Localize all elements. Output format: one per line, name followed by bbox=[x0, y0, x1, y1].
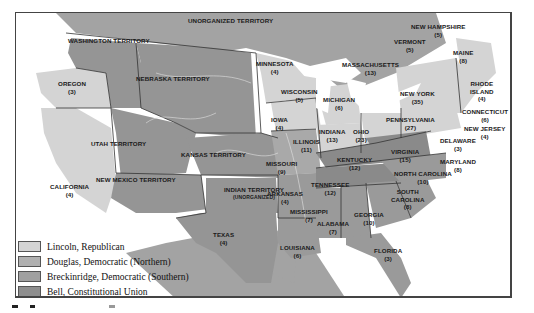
bottom-decoration bbox=[12, 305, 119, 313]
label-connecticut: CONNECTICUT(6) bbox=[462, 108, 508, 123]
label-pennsylvania: PENNSYLVANIA(27) bbox=[386, 116, 435, 131]
legend-item-breckinridge: Breckinridge, Democratic (Southern) bbox=[18, 269, 189, 284]
label-delaware: DELAWARE(3) bbox=[440, 137, 476, 152]
label-alabama: ALABAMA(7) bbox=[317, 220, 349, 235]
map-frame: UNORGANIZED TERRITORY WASHINGTON TERRITO… bbox=[15, 12, 512, 298]
label-illinois: ILLINOIS(11) bbox=[293, 138, 320, 153]
label-maine: MAINE(8) bbox=[453, 49, 473, 64]
label-texas: TEXAS(4) bbox=[213, 231, 234, 246]
label-south-carolina: SOUTHCAROLINA(8) bbox=[391, 188, 424, 211]
label-california: CALIFORNIA(4) bbox=[50, 183, 89, 198]
label-new-hampshire: NEW HAMPSHIRE(5) bbox=[411, 23, 466, 38]
label-michigan: MICHIGAN(6) bbox=[323, 96, 355, 111]
label-minnesota: MINNESOTA(4) bbox=[256, 60, 294, 75]
label-wisconsin: WISCONSIN(5) bbox=[281, 88, 318, 103]
legend-swatch bbox=[18, 286, 41, 297]
label-iowa: IOWA(4) bbox=[271, 116, 288, 131]
label-georgia: GEORGIA(10) bbox=[354, 211, 384, 226]
legend-item-lincoln: Lincoln, Republican bbox=[18, 239, 189, 254]
legend-item-douglas: Douglas, Democratic (Northern) bbox=[18, 254, 189, 269]
label-vermont: VERMONT(5) bbox=[394, 38, 426, 53]
label-kentucky: KENTUCKY(12) bbox=[337, 156, 372, 171]
label-missouri: MISSOURI(9) bbox=[266, 160, 297, 175]
label-oregon: OREGON(3) bbox=[58, 80, 86, 95]
label-arkansas: ARKANSAS(4) bbox=[267, 190, 303, 205]
legend-swatch bbox=[18, 256, 41, 267]
label-louisiana: LOUISIANA(6) bbox=[280, 244, 315, 259]
label-rhode-island: RHODEISLAND(4) bbox=[470, 80, 494, 103]
label-new-mexico-territory: NEW MEXICO TERRITORY bbox=[96, 176, 176, 184]
label-virginia: VIRGINIA(15) bbox=[391, 148, 419, 163]
label-florida: FLORIDA(3) bbox=[374, 247, 402, 262]
legend-swatch bbox=[18, 241, 41, 252]
label-massachusetts: MASSACHUSETTS(13) bbox=[342, 61, 399, 76]
legend-label: Bell, Constitutional Union bbox=[47, 287, 148, 297]
legend-label: Douglas, Democratic (Northern) bbox=[47, 257, 171, 267]
label-utah-territory: UTAH TERRITORY bbox=[91, 140, 146, 148]
label-washington-territory: WASHINGTON TERRITORY bbox=[68, 37, 150, 45]
label-unorganized-territory: UNORGANIZED TERRITORY bbox=[188, 17, 273, 25]
map-legend: Lincoln, Republican Douglas, Democratic … bbox=[18, 239, 189, 298]
legend-swatch bbox=[18, 271, 41, 282]
label-indiana: INDIANA(13) bbox=[319, 128, 345, 143]
label-tennessee: TENNESSEE(12) bbox=[311, 181, 349, 196]
label-nebraska-territory: NEBRASKA TERRITORY bbox=[136, 75, 210, 83]
label-maryland: MARYLAND(8) bbox=[440, 158, 476, 173]
legend-item-bell: Bell, Constitutional Union bbox=[18, 284, 189, 298]
legend-label: Breckinridge, Democratic (Southern) bbox=[47, 272, 189, 282]
label-kansas-territory: KANSAS TERRITORY bbox=[181, 151, 246, 159]
label-new-york: NEW YORK(35) bbox=[400, 90, 435, 105]
label-ohio: OHIO(23) bbox=[353, 128, 369, 143]
legend-label: Lincoln, Republican bbox=[47, 242, 125, 252]
